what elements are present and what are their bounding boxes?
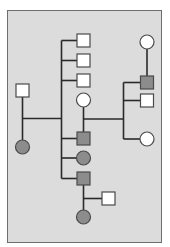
individual-square-unaffected xyxy=(77,74,90,87)
individual-circle-unaffected xyxy=(140,35,154,49)
individual-circle-unaffected xyxy=(77,93,91,107)
individual-square-unaffected xyxy=(77,54,90,67)
individual-square-affected xyxy=(77,172,90,185)
individual-square-affected xyxy=(141,76,154,89)
individual-square-affected xyxy=(77,132,90,145)
individuals xyxy=(16,34,155,224)
individual-square-unaffected xyxy=(16,84,29,97)
individual-square-unaffected xyxy=(141,94,154,107)
individual-circle-unaffected xyxy=(140,132,154,146)
pedigree-chart xyxy=(0,0,170,247)
individual-square-unaffected xyxy=(77,34,90,47)
individual-square-unaffected xyxy=(102,192,115,205)
individual-circle-affected xyxy=(16,140,30,154)
individual-circle-affected xyxy=(77,210,91,224)
individual-circle-affected xyxy=(77,151,91,165)
